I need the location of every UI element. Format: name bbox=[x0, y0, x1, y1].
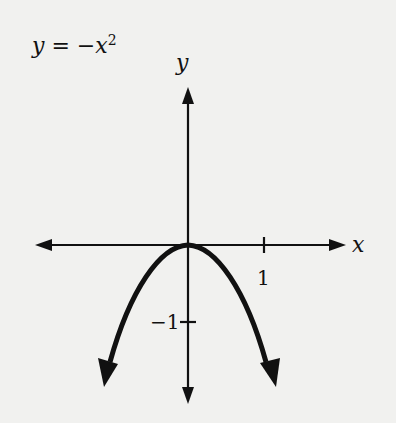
curve-left-arrow-icon bbox=[98, 358, 118, 387]
curve-right-arrow-icon bbox=[260, 358, 280, 387]
y-axis-up-arrow-icon bbox=[182, 87, 194, 104]
y-axis-down-arrow-icon bbox=[182, 387, 194, 404]
graph bbox=[0, 0, 396, 423]
x-axis-left-arrow-icon bbox=[35, 239, 52, 251]
x-axis-right-arrow-icon bbox=[329, 239, 346, 251]
